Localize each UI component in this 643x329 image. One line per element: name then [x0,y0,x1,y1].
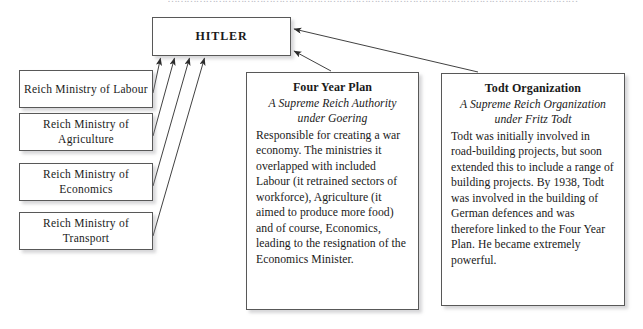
node-four-year-plan-title: Four Year Plan [256,80,409,96]
node-ministry-transport-label: Reich Ministry of Transport [20,216,152,245]
node-ministry-transport[interactable]: Reich Ministry of Transport [19,212,153,250]
arrow-labour-to-hitler [153,58,161,93]
node-todt-organization-title: Todt Organization [451,81,615,97]
node-ministry-economics[interactable]: Reich Ministry of Economics [19,163,153,201]
node-hitler-title: HITLER [195,29,247,44]
diagram-canvas: …………………………………………………………………………………………………………… [0,0,643,329]
node-four-year-plan-subtitle: A Supreme Reich Authority under Goering [256,97,409,127]
arrow-fouryear-to-hitler [294,51,331,71]
node-four-year-plan-body: Responsible for creating a war economy. … [256,128,409,268]
node-todt-organization-body: Todt was initially involved in road-buil… [451,129,615,269]
node-ministry-labour[interactable]: Reich Ministry of Labour [19,70,153,108]
node-ministry-labour-label: Reich Ministry of Labour [20,82,152,97]
arrow-transport-to-hitler [153,58,205,236]
node-ministry-agriculture-label: Reich Ministry of Agriculture [20,117,152,146]
arrow-economics-to-hitler [153,58,190,186]
node-four-year-plan[interactable]: Four Year Plan A Supreme Reich Authority… [246,72,419,310]
node-todt-organization[interactable]: Todt Organization A Supreme Reich Organi… [441,73,625,306]
node-todt-organization-subtitle: A Supreme Reich Organization under Fritz… [451,98,615,128]
node-hitler[interactable]: HITLER [152,17,291,56]
node-ministry-economics-label: Reich Ministry of Economics [20,167,152,196]
arrow-agriculture-to-hitler [153,58,175,136]
node-ministry-agriculture[interactable]: Reich Ministry of Agriculture [19,113,153,151]
